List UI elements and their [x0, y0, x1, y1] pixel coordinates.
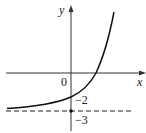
exponential-curve	[7, 12, 114, 109]
y-intercept-label: −2	[75, 93, 88, 107]
x-axis-label: x	[136, 75, 143, 89]
y-axis-arrow-icon	[69, 5, 74, 12]
function-graph: y x 0 −2 −3	[0, 0, 146, 133]
y-axis-label: y	[58, 3, 65, 17]
asymptote-point	[69, 109, 73, 113]
origin-label: 0	[61, 75, 67, 89]
asymptote-label: −3	[75, 113, 88, 127]
